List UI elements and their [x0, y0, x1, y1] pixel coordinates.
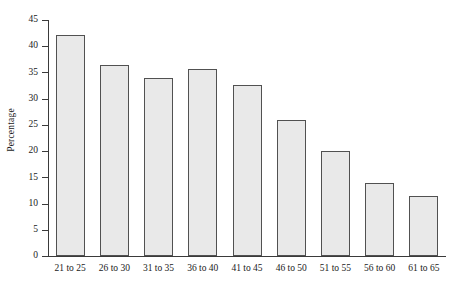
bar	[277, 120, 306, 256]
y-axis-tick-label: 0	[8, 251, 38, 261]
y-axis-tick-label: 20	[8, 146, 38, 156]
y-axis-tick-label-text: 30	[8, 94, 38, 104]
y-axis-tick-label: 40	[8, 41, 38, 51]
y-axis-tick-label-text: 5	[8, 225, 38, 235]
y-axis-tick-label: 15	[8, 172, 38, 182]
y-axis-tick-label: 45	[8, 15, 38, 25]
y-axis-tick-label-text: 25	[8, 120, 38, 130]
x-axis-tick-label: 41 to 45	[225, 261, 269, 275]
x-axis-tick-label: 21 to 25	[48, 261, 92, 275]
y-axis-ticks: 051015202530354045	[0, 0, 49, 289]
x-axis-tick-label: 26 to 30	[92, 261, 136, 275]
y-axis-tick-label: 35	[8, 67, 38, 77]
y-axis-tick-label: 25	[8, 120, 38, 130]
y-axis-tick-label-text: 0	[8, 251, 38, 261]
bar	[321, 151, 350, 256]
bar	[56, 35, 85, 256]
y-axis-tick-label: 5	[8, 225, 38, 235]
y-axis-tick-label-text: 45	[8, 15, 38, 25]
y-axis-tick-label-text: 10	[8, 199, 38, 209]
y-axis-tick-label-text: 40	[8, 41, 38, 51]
y-axis-tick-label-text: 20	[8, 146, 38, 156]
x-axis-tick-label: 56 to 60	[358, 261, 402, 275]
y-axis-tick-label-text: 35	[8, 68, 38, 78]
x-axis-tick-label: 36 to 40	[181, 261, 225, 275]
x-axis-tick-label: 61 to 65	[402, 261, 446, 275]
y-axis-tick	[42, 256, 49, 257]
y-axis-tick-label: 10	[8, 199, 38, 209]
plot-area	[48, 20, 446, 256]
bar	[409, 196, 438, 256]
x-axis-tick-label: 46 to 50	[269, 261, 313, 275]
x-axis-tick-label: 31 to 35	[136, 261, 180, 275]
bar	[144, 78, 173, 256]
x-axis-tick-label: 51 to 55	[313, 261, 357, 275]
bar-chart: Percentage 051015202530354045 21 to 2526…	[0, 0, 453, 289]
y-axis-tick-label: 30	[8, 94, 38, 104]
bar	[233, 85, 262, 256]
x-axis-line	[48, 256, 446, 257]
bar	[188, 69, 217, 256]
bar	[365, 183, 394, 256]
y-axis-tick-label-text: 15	[8, 173, 38, 183]
bar	[100, 65, 129, 256]
x-axis-labels: 21 to 2526 to 3031 to 3536 to 4041 to 45…	[48, 261, 446, 279]
